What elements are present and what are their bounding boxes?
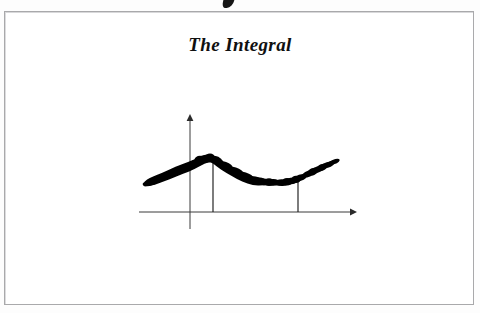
- integral-figure-svg: [121, 101, 371, 241]
- page-border-frame: The Integral: [4, 11, 474, 305]
- integrand-curve-group: [142, 153, 340, 187]
- x-axis-arrowhead-icon: [350, 209, 357, 216]
- figure-title: The Integral: [0, 34, 480, 56]
- integrand-curve-texture: [142, 153, 340, 187]
- ink-bleed-mark-icon: [222, 0, 235, 8]
- plot-area: [121, 101, 371, 241]
- y-axis-arrowhead-icon: [187, 114, 194, 121]
- scanned-page-surface: The Integral: [0, 0, 480, 313]
